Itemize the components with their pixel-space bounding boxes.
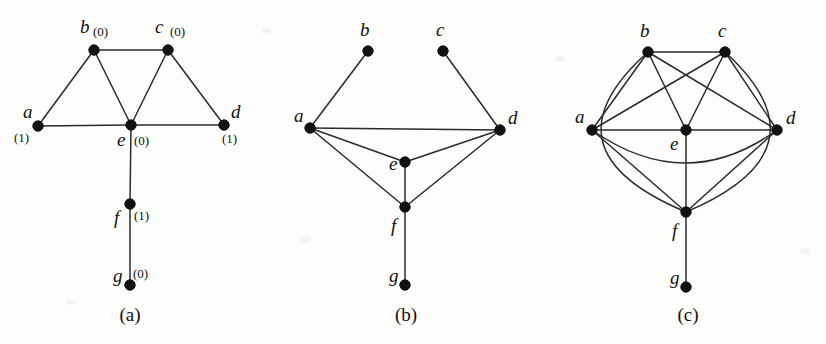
node-weight-panel-a-b: (0)	[93, 24, 108, 39]
node-panel-c-f[interactable]	[681, 207, 691, 217]
node-label-panel-a-a: a	[23, 101, 33, 122]
captions-layer: (a)(b)(c)	[119, 304, 698, 326]
edge-c-f	[686, 52, 770, 212]
label-group-panel-b: abcdefg	[294, 19, 518, 286]
node-panel-b-e[interactable]	[400, 157, 410, 167]
node-panel-b-d[interactable]	[495, 125, 505, 135]
edge-a-e	[38, 125, 131, 126]
nodes-layer	[33, 45, 782, 292]
node-label-panel-a-d: d	[231, 101, 241, 122]
node-label-panel-c-b: b	[640, 20, 650, 41]
node-label-panel-b-d: d	[508, 107, 518, 128]
edge-a-d	[310, 128, 500, 130]
edge-b-f	[601, 52, 686, 212]
node-label-panel-a-e: e	[117, 129, 125, 150]
node-label-panel-a-g: g	[113, 265, 123, 286]
node-panel-b-g[interactable]	[400, 280, 410, 290]
edge-b-e	[94, 50, 131, 125]
node-weight-panel-a-d: (1)	[222, 131, 237, 146]
node-panel-c-b[interactable]	[643, 47, 653, 57]
node-panel-b-b[interactable]	[363, 46, 373, 56]
node-weight-panel-a-g: (0)	[133, 266, 148, 281]
node-label-panel-c-d: d	[786, 107, 796, 128]
caption-panel-b: (b)	[395, 304, 417, 326]
node-label-panel-c-f: f	[672, 220, 680, 241]
edges-layer	[38, 50, 777, 287]
edge-a-b	[310, 51, 368, 128]
node-panel-b-c[interactable]	[438, 46, 448, 56]
node-label-panel-a-c: c	[155, 16, 164, 37]
node-panel-a-c[interactable]	[163, 45, 173, 55]
edge-e-f	[130, 125, 131, 204]
node-weight-panel-a-c: (0)	[170, 24, 185, 39]
node-panel-c-c[interactable]	[720, 47, 730, 57]
figure-container: a(1)b(0)c(0)d(1)e(0)f(1)g(0)abcdefgabcde…	[0, 0, 826, 344]
node-label-panel-c-e: e	[670, 133, 678, 154]
graph-figure-svg: a(1)b(0)c(0)d(1)e(0)f(1)g(0)abcdefgabcde…	[0, 0, 826, 344]
node-panel-a-g[interactable]	[125, 280, 135, 290]
edge-f-d	[405, 130, 500, 207]
edge-group-panel-c	[592, 52, 777, 287]
node-label-panel-b-a: a	[294, 105, 304, 126]
label-group-panel-a: a(1)b(0)c(0)d(1)e(0)f(1)g(0)	[14, 16, 241, 286]
node-weight-panel-a-e: (0)	[134, 133, 149, 148]
edge-group-panel-b	[310, 51, 500, 285]
node-label-panel-c-g: g	[670, 267, 680, 288]
edge-a-b	[592, 52, 648, 130]
caption-panel-c: (c)	[677, 304, 698, 326]
edge-f-d	[686, 130, 777, 212]
node-weight-panel-a-a: (1)	[14, 130, 29, 145]
node-label-panel-c-c: c	[718, 20, 727, 41]
node-panel-a-b[interactable]	[89, 45, 99, 55]
edge-a-b	[38, 50, 94, 126]
edge-group-panel-a	[38, 50, 224, 285]
edge-c-d	[443, 51, 500, 130]
node-panel-c-d[interactable]	[772, 125, 782, 135]
node-panel-a-a[interactable]	[33, 121, 43, 131]
node-panel-b-f[interactable]	[400, 202, 410, 212]
node-weight-panel-a-f: (1)	[134, 208, 149, 223]
edge-c-d	[168, 50, 224, 125]
node-panel-c-e[interactable]	[681, 125, 691, 135]
edge-e-d	[405, 130, 500, 162]
node-panel-a-e[interactable]	[126, 120, 136, 130]
node-label-panel-a-b: b	[80, 16, 90, 37]
node-label-panel-b-f: f	[391, 215, 399, 236]
node-panel-c-g[interactable]	[681, 282, 691, 292]
node-panel-c-a[interactable]	[587, 125, 597, 135]
caption-panel-a: (a)	[119, 304, 140, 326]
edge-c-e	[131, 50, 168, 125]
node-label-panel-c-a: a	[575, 106, 585, 127]
node-panel-a-d[interactable]	[219, 120, 229, 130]
node-label-panel-a-f: f	[114, 207, 122, 228]
node-label-panel-b-e: e	[389, 153, 397, 174]
node-label-panel-b-b: b	[360, 19, 370, 40]
node-label-panel-b-g: g	[389, 265, 399, 286]
node-panel-b-a[interactable]	[305, 123, 315, 133]
node-label-panel-b-c: c	[436, 19, 445, 40]
